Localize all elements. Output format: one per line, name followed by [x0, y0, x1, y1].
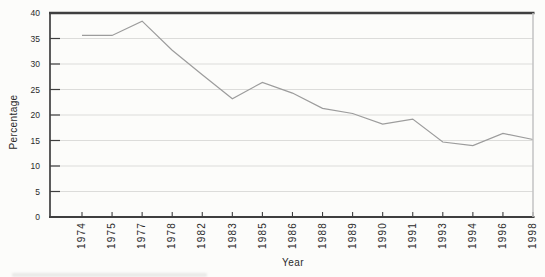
- cropped-caption-smudge: [12, 273, 207, 277]
- percentage-by-year-line-chart: 0510152025303540 19741975197719781982198…: [0, 0, 545, 277]
- x-axis-tick-labels: 1974197519771978198219831985198619881989…: [76, 222, 538, 249]
- x-tick-label: 1990: [377, 222, 388, 249]
- y-tick-label: 25: [31, 85, 41, 95]
- y-tick-label: 10: [31, 161, 41, 171]
- x-tick-label: 1996: [497, 222, 508, 249]
- x-tick-label: 1975: [106, 222, 117, 249]
- x-tick-label: 1982: [196, 222, 207, 249]
- y-tick-label: 0: [35, 212, 40, 222]
- x-tick-label: 1986: [287, 222, 298, 249]
- x-tick-label: 1989: [347, 222, 358, 249]
- x-tick-label: 1994: [467, 222, 478, 249]
- x-tick-label: 1985: [257, 222, 268, 249]
- percentage-by-year-figure: 0510152025303540 19741975197719781982198…: [0, 0, 545, 277]
- y-tick-label: 35: [31, 34, 41, 44]
- y-axis-title: Percentage: [8, 94, 19, 149]
- y-tick-label: 20: [31, 110, 41, 120]
- gridlines: [50, 39, 533, 192]
- y-tick-label: 30: [31, 59, 41, 69]
- data-series-line: [82, 21, 533, 145]
- x-tick-label: 1974: [76, 222, 87, 249]
- x-tick-label: 1988: [317, 222, 328, 249]
- x-tick-label: 1993: [437, 222, 448, 249]
- y-tick-label: 5: [35, 187, 40, 197]
- y-axis-tick-labels: 0510152025303540: [31, 8, 41, 222]
- x-tick-label: 1977: [136, 222, 147, 249]
- x-tick-label: 1991: [407, 222, 418, 249]
- y-tick-label: 15: [31, 136, 41, 146]
- x-tick-label: 1983: [227, 222, 238, 249]
- y-tick-label: 40: [31, 8, 41, 18]
- x-tick-label: 1978: [166, 222, 177, 249]
- x-tick-label: 1998: [527, 222, 538, 249]
- x-axis-title: Year: [282, 257, 304, 268]
- y-axis-ticks: [50, 39, 60, 192]
